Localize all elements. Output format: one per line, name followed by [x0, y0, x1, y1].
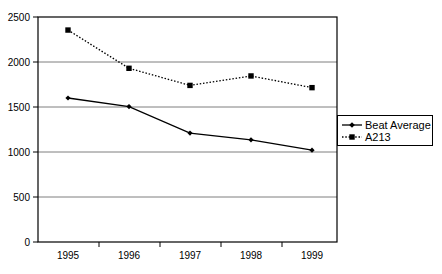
data-point-1998 — [248, 73, 253, 78]
legend-label-a213: A213 — [365, 131, 391, 143]
legend-marker-square-icon — [349, 134, 354, 139]
y-axis-label-0: 0 — [24, 237, 30, 248]
x-axis-label-1999: 1999 — [301, 250, 324, 261]
x-axis-labels: 1995 1996 1997 1998 1999 — [57, 250, 324, 261]
y-axis-label-2000: 2000 — [8, 57, 31, 68]
x-axis-label-1996: 1996 — [118, 250, 141, 261]
data-point-1997 — [187, 83, 192, 88]
plot-area-background — [38, 17, 337, 242]
x-axis-label-1998: 1998 — [240, 250, 263, 261]
y-axis-label-1000: 1000 — [8, 147, 31, 158]
legend: Beat Average A213 — [338, 116, 433, 146]
y-axis-label-500: 500 — [13, 192, 30, 203]
x-axis-label-1995: 1995 — [57, 250, 80, 261]
x-axis-label-1997: 1997 — [179, 250, 202, 261]
data-point-1999 — [309, 85, 314, 90]
x-axis-ticks — [99, 242, 282, 247]
y-axis-labels: 2500 2000 1500 1000 500 0 — [8, 12, 31, 248]
chart-container: 2500 2000 1500 1000 500 0 1995 1996 1997… — [0, 0, 442, 274]
data-point-1995 — [65, 27, 70, 32]
y-axis-label-2500: 2500 — [8, 12, 31, 23]
line-chart: 2500 2000 1500 1000 500 0 1995 1996 1997… — [0, 0, 442, 274]
y-axis-ticks — [33, 17, 38, 242]
legend-label-beat-average: Beat Average — [365, 119, 431, 131]
data-point-1996 — [126, 66, 131, 71]
y-axis-label-1500: 1500 — [8, 102, 31, 113]
